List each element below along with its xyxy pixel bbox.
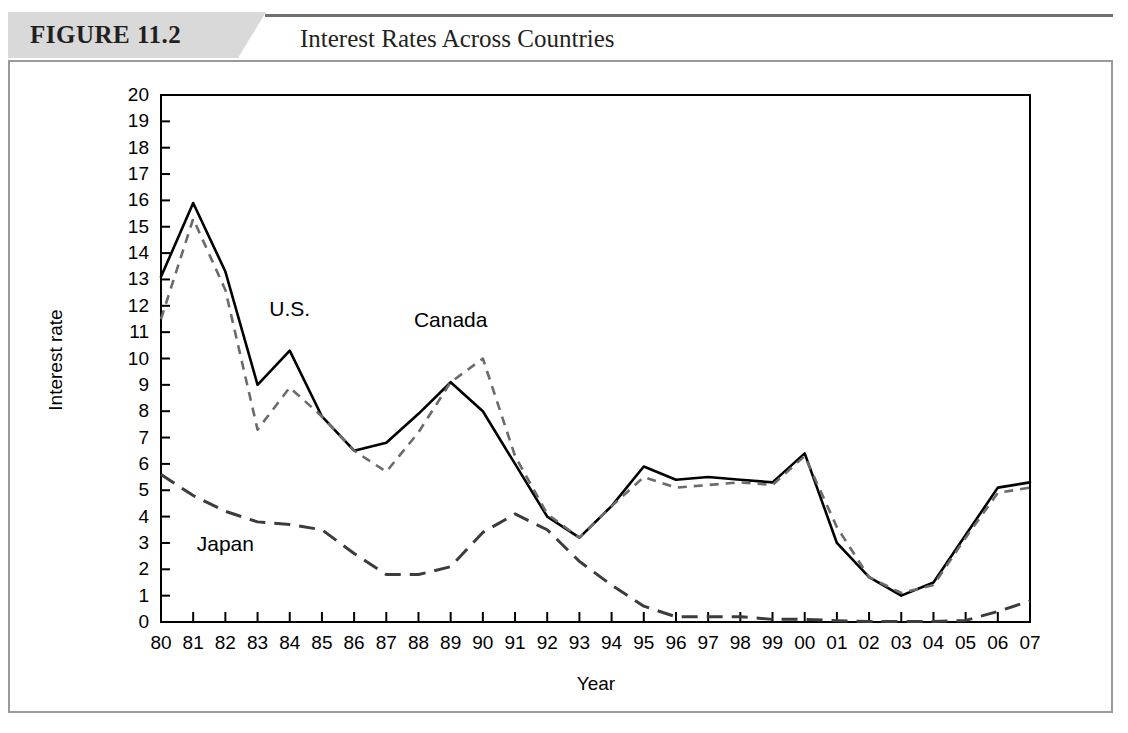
figure-number-label: FIGURE 11.2 [30, 21, 181, 49]
figure-root: FIGURE 11.2 Interest Rates Across Countr… [0, 0, 1128, 733]
figure-header: FIGURE 11.2 Interest Rates Across Countr… [0, 12, 1128, 60]
figure-title: Interest Rates Across Countries [300, 25, 615, 53]
header-rule [265, 14, 1113, 17]
figure-frame [8, 60, 1113, 713]
